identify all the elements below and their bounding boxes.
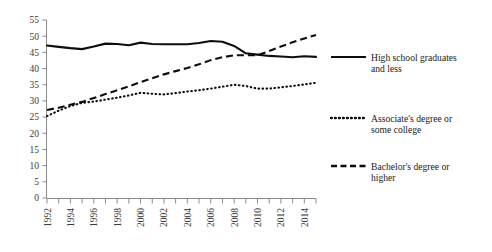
y-tick-label: 10	[30, 161, 40, 171]
x-tick-label: 2000	[136, 208, 146, 227]
y-tick-label: 15	[30, 145, 40, 155]
x-axis: 1992199419961998200020022004200620082010…	[43, 199, 317, 228]
legend-label: High school graduates	[371, 52, 457, 63]
legend-label-line2: and less	[371, 63, 402, 74]
x-tick-label: 2004	[183, 208, 193, 227]
x-tick-label: 2012	[276, 208, 286, 227]
x-tick-label: 1992	[43, 208, 53, 227]
legend-label-line2: some college	[371, 124, 421, 135]
x-tick-label: 2008	[230, 208, 240, 227]
line-chart: 0510152025303540455055 19921994199619982…	[0, 0, 492, 252]
y-tick-label: 35	[30, 80, 40, 90]
series-line-dotted	[47, 83, 316, 116]
chart-container: 0510152025303540455055 19921994199619982…	[0, 0, 492, 252]
y-tick-label: 55	[30, 15, 40, 25]
x-axis-ticks	[47, 199, 316, 204]
y-tick-label: 25	[30, 112, 40, 122]
chart-legend: High school graduatesand lessAssociate's…	[331, 52, 457, 184]
x-tick-label: 1996	[89, 208, 99, 227]
y-tick-label: 40	[30, 64, 40, 74]
x-tick-label: 2006	[206, 208, 216, 227]
y-tick-label: 50	[30, 32, 40, 42]
x-tick-label: 1998	[113, 208, 123, 227]
x-axis-tick-labels: 1992199419961998200020022004200620082010…	[43, 208, 310, 227]
y-tick-label: 5	[34, 177, 39, 187]
legend-label: Bachelor's degree or	[371, 161, 450, 172]
series-line-dashed	[47, 35, 316, 110]
chart-series	[47, 35, 316, 116]
y-tick-label: 45	[30, 48, 40, 58]
legend-label-line2: higher	[371, 172, 396, 183]
y-tick-label: 30	[30, 96, 40, 106]
x-tick-label: 2010	[253, 208, 263, 227]
x-tick-label: 2014	[300, 208, 310, 227]
x-tick-label: 2002	[159, 208, 169, 227]
y-axis-tick-labels: 0510152025303540455055	[30, 15, 40, 203]
x-tick-label: 1994	[66, 208, 76, 227]
y-tick-label: 0	[34, 193, 39, 203]
y-tick-label: 20	[30, 129, 40, 139]
legend-label: Associate's degree or	[371, 113, 453, 124]
y-axis: 0510152025303540455055	[30, 15, 47, 203]
y-axis-ticks	[43, 20, 47, 198]
